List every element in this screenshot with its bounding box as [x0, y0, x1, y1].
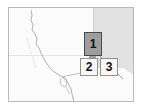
callout-2-label: 2	[86, 61, 93, 73]
callout-3-label: 3	[106, 61, 113, 73]
coastline-icon	[9, 8, 134, 102]
callout-1-label: 1	[90, 38, 97, 50]
map-frame: 1 2 3	[8, 7, 134, 102]
map-figure: 1 2 3	[0, 0, 143, 110]
callout-box-2[interactable]: 2	[80, 58, 98, 76]
callout-box-1[interactable]: 1	[84, 32, 102, 56]
callout-box-3[interactable]: 3	[100, 58, 118, 76]
